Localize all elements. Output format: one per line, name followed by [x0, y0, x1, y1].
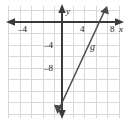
x-tick-label-minus-4: –4 [18, 25, 27, 34]
x-axis-left-arrowhead [6, 18, 15, 26]
y-tick-label-minus-4: –4 [44, 41, 53, 50]
y-axis-top-arrowhead [58, 4, 65, 13]
x-tick-label-8: 8 [110, 25, 115, 34]
x-tick-label-4: 4 [80, 25, 85, 34]
grid-vertical-lines [9, 6, 120, 118]
y-axis-name: y [66, 7, 70, 16]
coordinate-graph-figure: –4 4 8 –4 –8 y x g [0, 0, 128, 124]
x-axis-name: x [119, 25, 123, 34]
y-tick-label-minus-8: –8 [44, 64, 53, 73]
graph-canvas [0, 0, 128, 124]
line-g-label: g [90, 42, 95, 52]
